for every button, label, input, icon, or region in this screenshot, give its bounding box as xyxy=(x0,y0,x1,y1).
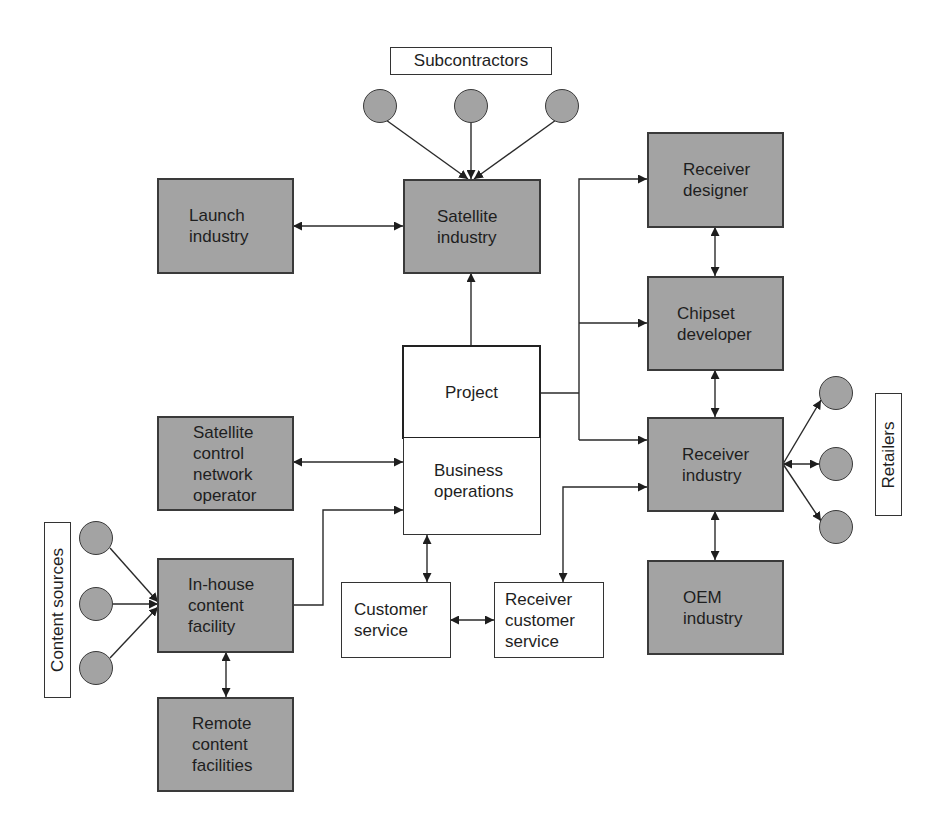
box-text: developer xyxy=(677,324,752,345)
content-sources-text: Content sources xyxy=(48,548,68,672)
box-text: customer xyxy=(505,610,575,631)
box-text: Launch xyxy=(189,205,245,226)
retailer-node xyxy=(819,376,853,410)
box-text: Business xyxy=(434,460,503,481)
satellite-control-box: Satellite control network operator xyxy=(157,416,294,511)
box-text: service xyxy=(505,631,559,652)
subcontractors-text: Subcontractors xyxy=(414,51,528,71)
box-text: operations xyxy=(434,481,513,502)
content-source-node xyxy=(79,651,113,685)
box-text: network xyxy=(193,464,253,485)
content-source-node xyxy=(79,521,113,555)
retailers-text: Retailers xyxy=(879,421,899,488)
subcontractors-label: Subcontractors xyxy=(390,47,552,75)
box-text: Receiver xyxy=(505,589,572,610)
business-operations-box: Business operations xyxy=(403,438,541,535)
retailer-node xyxy=(819,447,853,481)
retailer-node xyxy=(819,510,853,544)
oem-industry-box: OEM industry xyxy=(647,560,784,655)
chipset-developer-box: Chipset developer xyxy=(647,276,784,371)
box-text: Satellite xyxy=(437,206,497,227)
subcontractor-node xyxy=(545,89,579,123)
box-text: Receiver xyxy=(682,444,749,465)
box-text: content xyxy=(188,595,244,616)
receiver-industry-box: Receiver industry xyxy=(647,417,784,512)
box-text: Chipset xyxy=(677,303,735,324)
box-text: control xyxy=(193,443,244,464)
receiver-designer-box: Receiver designer xyxy=(647,132,784,228)
box-text: Customer xyxy=(354,599,428,620)
box-text: industry xyxy=(189,226,249,247)
content-sources-label: Content sources xyxy=(44,522,71,698)
box-text: designer xyxy=(683,180,748,201)
box-text: industry xyxy=(437,227,497,248)
box-text: facilities xyxy=(192,755,252,776)
in-house-content-box: In-house content facility xyxy=(157,558,294,653)
content-source-node xyxy=(79,587,113,621)
box-text: industry xyxy=(682,465,742,486)
box-text: Project xyxy=(445,382,498,403)
customer-service-box: Customer service xyxy=(341,582,451,658)
project-box: Project xyxy=(402,345,541,439)
box-text: service xyxy=(354,620,408,641)
box-text: Satellite xyxy=(193,422,253,443)
receiver-customer-service-box: Receiver customer service xyxy=(494,582,604,658)
box-text: content xyxy=(192,734,248,755)
retailers-label: Retailers xyxy=(875,393,902,516)
satellite-industry-box: Satellite industry xyxy=(403,179,541,274)
subcontractor-node xyxy=(454,89,488,123)
box-text: Receiver xyxy=(683,159,750,180)
box-text: facility xyxy=(188,616,235,637)
remote-content-box: Remote content facilities xyxy=(157,697,294,792)
box-text: Remote xyxy=(192,713,252,734)
box-text: operator xyxy=(193,485,256,506)
box-text: industry xyxy=(683,608,743,629)
box-text: In-house xyxy=(188,574,254,595)
box-text: OEM xyxy=(683,587,722,608)
subcontractor-node xyxy=(363,89,397,123)
launch-industry-box: Launch industry xyxy=(157,178,294,274)
